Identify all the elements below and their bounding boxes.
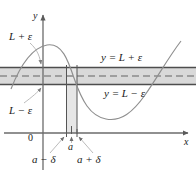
a-plus-delta-label: a + δ — [77, 154, 101, 165]
x-axis-label: x — [184, 137, 188, 147]
epsilon-delta-limit-figure: L + ε L − ε y = L + ε y = L − ε y x 0 a … — [0, 0, 196, 177]
y-axis-label: y — [33, 11, 37, 21]
a-minus-delta-leader — [50, 137, 64, 153]
lower-line-equation-label: y = L − ε — [104, 88, 145, 99]
figure-canvas — [0, 0, 196, 177]
a-minus-delta-label: a − δ — [32, 154, 56, 165]
a-plus-delta-leader — [79, 137, 93, 153]
lower-bound-label: L − ε — [9, 105, 32, 116]
point-a-label: a — [68, 142, 73, 152]
origin-label: 0 — [28, 133, 33, 143]
upper-line-equation-label: y = L + ε — [101, 52, 142, 63]
upper-bound-label: L + ε — [9, 31, 32, 42]
lower-bound-leader — [24, 88, 41, 103]
